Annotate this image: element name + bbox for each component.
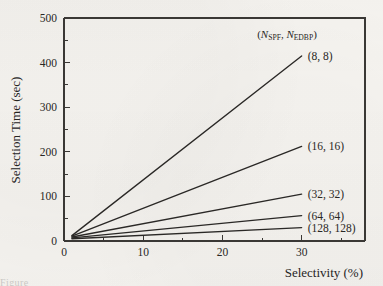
y-axis-title: Selection Time (sec) — [8, 77, 23, 184]
figure-page: 0100200300400500 0102030 (8, 8)(16, 16)(… — [0, 0, 383, 286]
series-line — [72, 56, 302, 236]
x-axis-tick-labels: 0102030 — [61, 246, 308, 258]
series-line — [72, 228, 302, 239]
y-tick-label: 100 — [40, 190, 58, 202]
y-axis-tick-labels: 0100200300400500 — [40, 12, 58, 247]
chart-canvas: 0100200300400500 0102030 (8, 8)(16, 16)(… — [0, 0, 383, 286]
x-tick-label: 30 — [296, 246, 308, 258]
series-end-label: (32, 32) — [308, 188, 345, 201]
series-end-label: (16, 16) — [308, 140, 345, 153]
series-labels-group: (8, 8)(16, 16)(32, 32)(64, 64)(128, 128) — [308, 50, 356, 235]
x-tick-label: 0 — [61, 246, 67, 258]
y-tick-label: 0 — [51, 235, 57, 247]
y-tick-label: 200 — [40, 146, 58, 158]
series-end-label: (8, 8) — [308, 50, 333, 63]
series-lines-group — [72, 56, 302, 239]
x-tick-label: 10 — [137, 246, 149, 258]
y-tick-label: 500 — [40, 12, 58, 24]
series-line — [72, 146, 302, 236]
y-tick-label: 300 — [40, 101, 58, 113]
series-line — [72, 216, 302, 238]
page-caption-fragment: Figure — [0, 277, 383, 286]
series-end-label: (128, 128) — [308, 222, 356, 235]
x-tick-label: 20 — [217, 246, 229, 258]
legend-header: (NSPF, NEDBP) — [257, 28, 317, 42]
series-line — [72, 194, 302, 237]
y-tick-label: 400 — [40, 57, 58, 69]
